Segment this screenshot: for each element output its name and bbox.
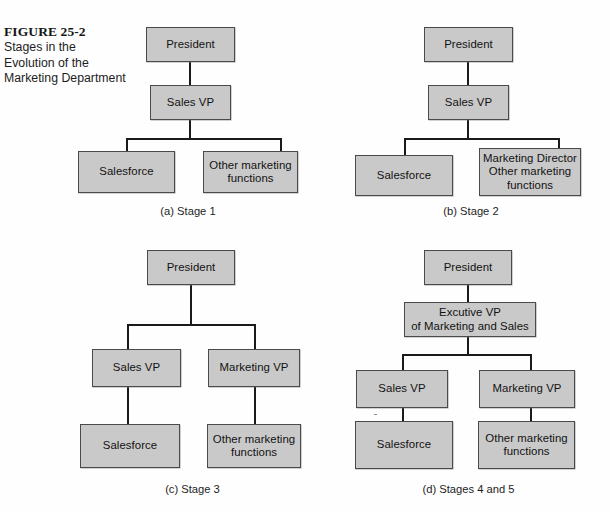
box-other-marketing-functions: Other marketing functions xyxy=(478,421,575,469)
box-president: President xyxy=(147,250,235,285)
box-president: President xyxy=(146,27,235,62)
box-president: President xyxy=(424,27,513,62)
panel-label-b: (b) Stage 2 xyxy=(406,205,536,217)
box-other-marketing-functions: Other marketing functions xyxy=(207,424,301,468)
panel-label-c: (c) Stage 3 xyxy=(130,483,255,495)
box-salesforce: Salesforce xyxy=(78,151,175,193)
box-executive-vp-marketing-sales: Excutive VP of Marketing and Sales xyxy=(404,302,536,337)
box-marketing-vp: Marketing VP xyxy=(479,370,575,408)
connector-bus-other xyxy=(280,138,282,152)
connector-president-bus xyxy=(190,285,192,325)
panel-label-d: (d) Stages 4 and 5 xyxy=(396,483,541,495)
connector-bus-stage2 xyxy=(404,138,560,140)
box-other-marketing-functions: Other marketing functions xyxy=(203,151,298,193)
box-marketing-director-other-functions: Marketing Director Other marketing funct… xyxy=(479,148,581,196)
box-sales-vp: Sales VP xyxy=(150,85,231,120)
connector-salesvp-salesforce xyxy=(402,408,404,422)
box-sales-vp: Sales VP xyxy=(92,349,181,387)
box-sales-vp: Sales VP xyxy=(428,85,509,120)
connector-marketingvp-other xyxy=(254,387,256,425)
connector-president-salesvp xyxy=(467,62,469,85)
figure-number: FIGURE 25-2 xyxy=(4,24,129,39)
connector-salesvp-salesforce xyxy=(127,387,129,425)
box-salesforce: Salesforce xyxy=(80,424,180,468)
box-salesforce: Salesforce xyxy=(355,421,453,469)
connector-salesvp-bus xyxy=(189,120,191,139)
box-president: President xyxy=(424,250,512,285)
connector-bus-salesforce xyxy=(126,138,128,152)
figure-caption-block: FIGURE 25-2 Stages in the Evolution of t… xyxy=(4,24,129,87)
box-sales-vp: Sales VP xyxy=(356,370,448,408)
connector-bus-salesforce xyxy=(404,138,406,156)
connector-president-execvp xyxy=(467,285,469,303)
connector-execvp-bus xyxy=(467,337,469,355)
panel-label-a: (a) Stage 1 xyxy=(128,205,248,217)
stray-mark xyxy=(374,414,377,415)
connector-bus-stage1 xyxy=(126,138,282,140)
box-salesforce: Salesforce xyxy=(355,155,453,196)
connector-bus-stage3 xyxy=(127,324,256,326)
connector-marketingvp-other xyxy=(530,408,532,422)
connector-bus-marketingvp xyxy=(254,324,256,350)
figure-page: FIGURE 25-2 Stages in the Evolution of t… xyxy=(0,0,611,514)
connector-bus-stage45 xyxy=(402,354,532,356)
box-marketing-vp: Marketing VP xyxy=(208,349,300,387)
connector-bus-salesvp xyxy=(127,324,129,350)
figure-caption-text: Stages in the Evolution of the Marketing… xyxy=(4,40,129,87)
connector-salesvp-bus xyxy=(467,120,469,139)
connector-president-salesvp xyxy=(189,62,191,85)
